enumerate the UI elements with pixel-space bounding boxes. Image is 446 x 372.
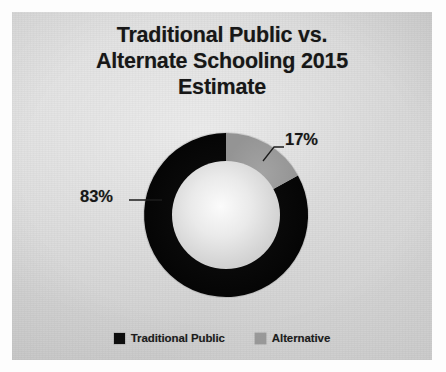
plot-area: 17% 83%: [12, 12, 432, 360]
legend-item-traditional-public[interactable]: Traditional Public: [114, 332, 225, 344]
donut-chart: [12, 12, 432, 360]
legend-label-traditional-public: Traditional Public: [131, 332, 225, 344]
chart-panel: Traditional Public vs. Alternate Schooli…: [12, 12, 432, 360]
legend-label-alternative: Alternative: [272, 332, 330, 344]
legend-swatch-alternative: [255, 333, 266, 344]
data-label-alternative: 17%: [285, 130, 318, 149]
donut-hole: [172, 161, 280, 269]
data-label-traditional: 83%: [80, 187, 113, 206]
legend-item-alternative[interactable]: Alternative: [255, 332, 330, 344]
legend-swatch-traditional-public: [114, 333, 125, 344]
scanned-page: Traditional Public vs. Alternate Schooli…: [0, 0, 446, 372]
chart-legend: Traditional Public Alternative: [12, 332, 432, 344]
